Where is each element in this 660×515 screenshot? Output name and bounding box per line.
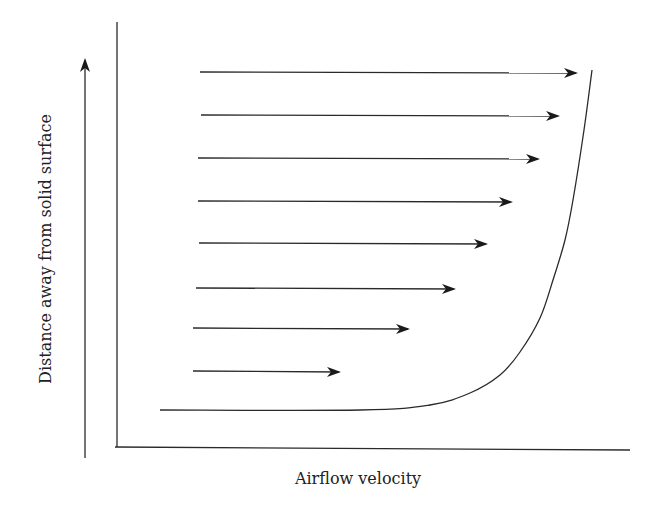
velocity-arrow-6	[196, 288, 454, 289]
y-axis-label: Distance away from solid surface	[36, 114, 55, 384]
velocity-arrow-3	[198, 158, 538, 159]
velocity-arrow-4	[198, 201, 511, 202]
x-axis-label: Airflow velocity	[294, 469, 421, 488]
velocity-arrow-5	[199, 243, 486, 244]
velocity-arrow-7	[193, 328, 408, 329]
velocity-arrow-8	[193, 371, 339, 372]
velocity-arrows	[193, 72, 576, 372]
boundary-layer-diagram: Airflow velocity Distance away from soli…	[0, 0, 660, 515]
velocity-arrow-1	[200, 72, 576, 73]
velocity-arrow-2	[201, 115, 558, 116]
velocity-profile-curve	[160, 70, 592, 410]
horizontal-axis-line	[115, 447, 630, 450]
